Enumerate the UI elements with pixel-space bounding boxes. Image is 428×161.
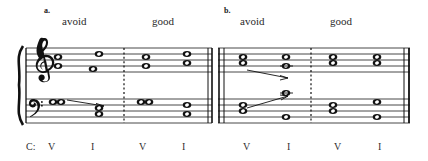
chord-b-4: [373, 54, 382, 120]
staff-group-b: [218, 48, 410, 123]
note-a1-treble-lower: [54, 63, 63, 69]
note-b2-treble-upper: [282, 54, 291, 60]
note-b3-bass-lower: [329, 108, 338, 114]
note-b2-bass-lower: [282, 114, 291, 120]
note-a1-treble-upper: [54, 54, 63, 60]
chord-a-4: [183, 51, 192, 117]
note-a2-treble-lower: [89, 66, 98, 72]
note-a3-bass-left: [137, 99, 146, 105]
note-a2-treble-upper: [95, 51, 104, 57]
note-a4-bass-lower: [183, 111, 192, 117]
voice-leading-line-b-treble: [247, 70, 288, 78]
treble-staff-lines-a: [26, 48, 212, 72]
note-b3-treble-lower: [329, 60, 338, 66]
staff-group-a: [19, 38, 212, 125]
note-b3-bass-upper: [329, 102, 338, 108]
note-a2-bass-upper: [95, 105, 104, 111]
note-a4-treble-upper: [183, 51, 192, 57]
treble-staff-lines-b: [218, 48, 410, 72]
note-a1-bass-right: [57, 99, 66, 105]
note-a1-bass-left: [49, 99, 58, 105]
chord-b-2: [280, 54, 293, 120]
chord-a-1: [49, 54, 104, 108]
note-a4-bass-upper: [183, 102, 192, 108]
grand-staff-notation: [0, 0, 428, 161]
note-b3-treble-upper: [329, 54, 338, 60]
system-brace-a: [19, 46, 23, 125]
voice-leading-line-b-bass: [247, 96, 288, 108]
note-b4-bass-upper: [373, 99, 382, 105]
note-a4-treble-lower: [183, 60, 192, 66]
note-b1-bass-lower: [239, 108, 248, 114]
note-a3-treble-upper: [142, 54, 151, 60]
chord-b-3: [329, 54, 338, 114]
note-b4-bass-lower: [373, 114, 382, 120]
note-a3-treble-lower: [142, 63, 151, 69]
chord-a-2: [89, 51, 104, 117]
treble-clef-a: [36, 38, 55, 83]
chord-a-3: [137, 54, 154, 105]
note-a2-bass-lower: [95, 111, 104, 117]
note-b1-treble-lower: [239, 60, 248, 66]
note-b1-treble-upper: [239, 54, 248, 60]
note-b1-bass-upper: [239, 102, 248, 108]
music-example-figure: a. b. avoid good avoid good C: V I V I V…: [0, 0, 428, 161]
note-b4-treble-upper: [373, 54, 382, 60]
note-b4-treble-lower: [373, 60, 382, 66]
bass-clef-a: [29, 99, 43, 117]
note-a3-bass-right: [145, 99, 154, 105]
voice-leading-arrow-b-treble: [280, 76, 288, 81]
